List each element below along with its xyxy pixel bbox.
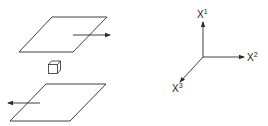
diagram-canvas: X1 X2 X3 [0, 0, 268, 126]
x3-label: X3 [172, 82, 183, 94]
top-plane [19, 17, 107, 52]
left-figure [8, 17, 110, 121]
x2-label: X2 [247, 51, 258, 63]
x3-axis [180, 57, 203, 82]
coordinate-axes: X1 X2 X3 [172, 8, 258, 94]
cube-icon [49, 61, 61, 74]
x1-label: X1 [197, 8, 208, 20]
bottom-plane [10, 84, 106, 121]
